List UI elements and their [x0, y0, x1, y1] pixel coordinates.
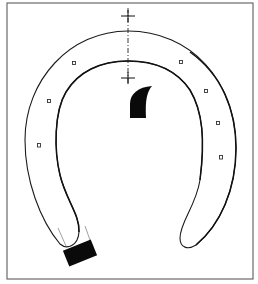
horseshoe-outer-right-edge: [190, 52, 236, 245]
heel-block-shape: [63, 239, 97, 266]
nail-hole-icon: [48, 100, 51, 103]
nail-hole-icon: [205, 90, 208, 93]
nail-hole-icon: [180, 61, 183, 64]
toe-clip-shape: [130, 86, 152, 118]
lower-cross-icon: [121, 72, 135, 84]
nail-hole-icon: [217, 122, 220, 125]
upper-cross-icon: [121, 10, 135, 22]
nail-hole-icon: [220, 156, 223, 160]
horseshoe-inner-edge: [56, 61, 202, 232]
nail-hole-icon: [38, 144, 41, 148]
heel-guide-line-right: [85, 226, 90, 240]
diagram-frame: [7, 3, 253, 279]
nail-holes-right: [180, 61, 223, 160]
horseshoe-diagram: [0, 0, 258, 284]
nail-hole-icon: [73, 62, 76, 65]
